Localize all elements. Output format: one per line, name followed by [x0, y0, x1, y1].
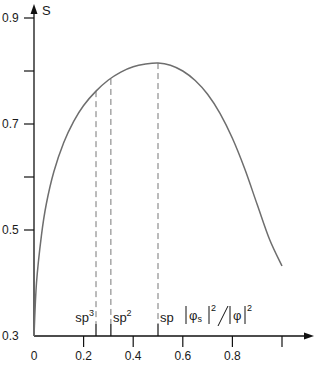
- x-tick-label: 0.8: [224, 349, 241, 363]
- x-tick-label: 0.2: [75, 349, 92, 363]
- x-tick-label: 0.4: [125, 349, 142, 363]
- x-title-numerator: φs: [189, 308, 202, 324]
- y-tick-label: 0.9: [2, 11, 19, 25]
- plot-area: S0.30.50.70.900.20.40.60.8sp3sp2spφs2φ2: [2, 3, 314, 363]
- x-tick-label: 0.6: [174, 349, 191, 363]
- hybridization-label-sp3: sp3: [75, 308, 94, 325]
- x-tick-label: 0: [31, 349, 38, 363]
- hybridization-label-sp: sp: [160, 310, 174, 325]
- x-title-denominator: φ: [233, 308, 241, 323]
- y-tick-label: 0.5: [2, 223, 19, 237]
- x-axis-title: φs2φ2: [186, 303, 252, 326]
- x-title-sup-1: 2: [211, 303, 216, 313]
- s-vs-s-character-chart: S0.30.50.70.900.20.40.60.8sp3sp2spφs2φ2: [0, 0, 316, 365]
- y-axis-arrow-icon: [31, 4, 38, 14]
- hybridization-label-sp2: sp2: [113, 308, 132, 325]
- y-tick-label: 0.7: [2, 117, 19, 131]
- y-tick-label: 0.3: [2, 329, 19, 343]
- fraction-slash: [218, 306, 228, 326]
- x-title-sup-2: 2: [247, 303, 252, 313]
- y-axis-title: S: [42, 3, 51, 18]
- x-axis-arrow-icon: [304, 333, 314, 340]
